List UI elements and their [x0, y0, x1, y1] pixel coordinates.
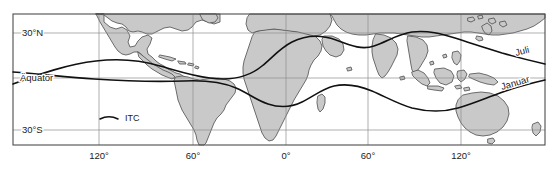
land-island-misc-6 — [464, 87, 470, 91]
label-lon-0: 0° — [281, 150, 290, 161]
world-map-figure: 30°N Äquator 30°S 120° 60° 0° 60° 120° J… — [0, 0, 555, 172]
land-island-ne-2 — [478, 15, 483, 19]
land-island-misc-1 — [347, 67, 352, 71]
land-island-misc-4 — [430, 61, 434, 65]
legend-label-itc: ITC — [125, 113, 140, 123]
label-lon-60e: 60° — [361, 150, 376, 161]
label-lat-30n: 30°N — [22, 27, 43, 38]
land-lesser-antilles — [195, 66, 199, 69]
longitude-label-group: 120° 60° 0° 60° 120° — [89, 150, 471, 161]
label-lon-120e: 120° — [451, 150, 471, 161]
label-lon-60w: 60° — [186, 150, 201, 161]
label-lon-120w: 120° — [89, 150, 109, 161]
land-island-misc-3 — [443, 54, 447, 58]
label-lat-equator: Äquator — [20, 72, 53, 83]
world-map-svg: 30°N Äquator 30°S 120° 60° 0° 60° 120° J… — [0, 0, 555, 172]
label-lat-30s: 30°S — [22, 124, 43, 135]
